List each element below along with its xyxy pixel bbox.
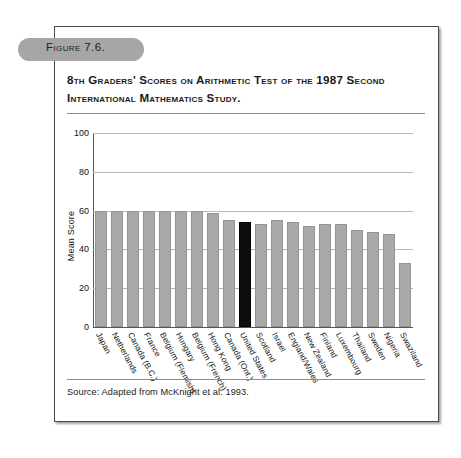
x-axis-label: Swaziland <box>398 331 424 369</box>
chart-plot-area: Mean Score 020406080100 JapanNetherlands… <box>55 123 440 353</box>
bar <box>383 234 395 327</box>
bar <box>191 211 203 327</box>
bar <box>271 220 283 327</box>
bar <box>367 232 379 327</box>
source-note: Source: Adapted from McKnight et al. 199… <box>67 387 249 397</box>
bar <box>287 222 299 327</box>
bar <box>239 222 251 327</box>
bars-group <box>93 133 413 327</box>
bar <box>399 263 411 327</box>
source-divider <box>67 379 425 380</box>
bar <box>319 224 331 327</box>
y-axis-tick-label: 60 <box>79 206 89 216</box>
figure-number-label: Figure 7.6. <box>46 41 105 53</box>
y-axis-tick-label: 40 <box>79 244 89 254</box>
bar <box>207 213 219 327</box>
title-divider <box>67 113 425 114</box>
bar <box>127 211 139 327</box>
y-axis-tick-label: 100 <box>74 128 89 138</box>
y-axis-tick-label: 0 <box>84 322 89 332</box>
bar <box>223 220 235 327</box>
y-axis-title: Mean Score <box>66 196 76 276</box>
x-axis-line <box>93 327 413 328</box>
chart-title: 8th Graders' Scores on Arithmetic Test o… <box>67 71 422 107</box>
chart-canvas: 020406080100 <box>93 133 413 328</box>
bar <box>303 226 315 327</box>
bar <box>111 211 123 327</box>
bar <box>143 211 155 327</box>
y-axis-tick-label: 80 <box>79 167 89 177</box>
figure-frame: 8th Graders' Scores on Arithmetic Test o… <box>54 26 439 422</box>
bar <box>255 224 267 327</box>
bar <box>335 224 347 327</box>
y-axis-tick-label: 20 <box>79 283 89 293</box>
bar <box>351 230 363 327</box>
bar <box>95 211 107 327</box>
bar <box>159 211 171 327</box>
bar <box>175 211 187 327</box>
